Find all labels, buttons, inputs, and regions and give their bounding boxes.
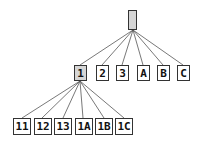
node-3[interactable]: 3 (116, 65, 129, 81)
node-1[interactable]: 1 (74, 65, 87, 81)
node-1c[interactable]: 1C (115, 118, 133, 135)
node-b[interactable]: B (157, 65, 170, 81)
root-node[interactable] (128, 10, 137, 30)
node-11[interactable]: 11 (13, 118, 31, 135)
tree-diagram: 1 2 3 A B C 11 12 13 1A 1B 1C (0, 0, 204, 148)
node-2[interactable]: 2 (96, 65, 109, 81)
node-1b[interactable]: 1B (95, 118, 113, 135)
node-c[interactable]: C (177, 65, 190, 81)
node-a[interactable]: A (137, 65, 150, 81)
node-13[interactable]: 13 (54, 118, 72, 135)
node-12[interactable]: 12 (34, 118, 52, 135)
node-1a[interactable]: 1A (75, 118, 93, 135)
